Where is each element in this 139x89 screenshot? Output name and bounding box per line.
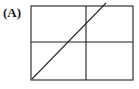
figure-panel-a: (A) bbox=[0, 0, 139, 89]
diagonal-line bbox=[32, 3, 106, 79]
plot-area bbox=[0, 0, 139, 89]
plot-frame bbox=[31, 6, 133, 80]
